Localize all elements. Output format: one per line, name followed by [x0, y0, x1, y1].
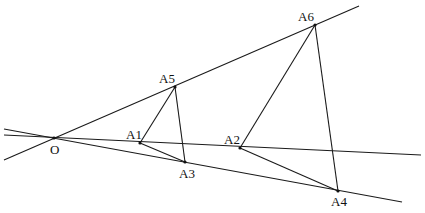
point-O [52, 136, 55, 139]
point-label-A3: A3 [179, 167, 195, 180]
segment-A1-A5 [140, 87, 175, 143]
point-label-A5: A5 [159, 72, 175, 85]
diagram-lines [0, 0, 425, 213]
segment-A6-A4 [315, 25, 338, 191]
segment-A5-A3 [175, 87, 185, 162]
line-ray-lower [4, 129, 402, 202]
segment-A2-A4 [240, 148, 338, 191]
point-label-A6: A6 [298, 10, 314, 23]
point-label-A2: A2 [224, 133, 240, 146]
segment-A2-A6 [240, 25, 315, 148]
point-A3 [183, 160, 186, 163]
point-label-A1: A1 [126, 128, 142, 141]
geometry-diagram: OA1A2A3A4A5A6 [0, 0, 425, 213]
line-ray-middle [4, 135, 421, 155]
point-label-A4: A4 [331, 195, 347, 208]
point-label-O: O [50, 143, 59, 156]
segment-A1-A3 [140, 143, 185, 162]
point-A4 [336, 189, 339, 192]
